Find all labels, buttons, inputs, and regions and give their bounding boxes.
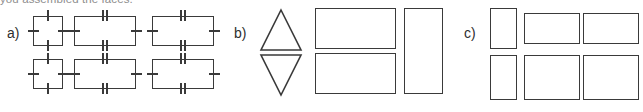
tick-mark-left [147, 30, 158, 32]
tick-mark-top [47, 10, 49, 21]
tick-mark-bottom [180, 40, 182, 51]
tick-mark-right [209, 73, 220, 75]
tick-mark-bottom [106, 83, 108, 94]
caption-strip: you assembled the faces. [0, 0, 260, 7]
tick-mark-right [209, 30, 220, 32]
tick-mark-bottom [184, 40, 186, 51]
caption-text: you assembled the faces. [0, 0, 260, 7]
tick-mark-top [184, 53, 186, 64]
part-label-b: b) [234, 26, 246, 40]
tick-mark-top [106, 53, 108, 64]
shape-rectangle-narrow-c4 [490, 55, 517, 100]
tick-mark-bottom [106, 40, 108, 51]
shape-rectangle-c6 [583, 55, 639, 100]
shape-rectangle-c5 [524, 55, 580, 100]
shape-rectangle-a6 [152, 59, 214, 89]
tick-mark-right [58, 73, 69, 75]
shape-rectangle-c2 [524, 13, 580, 44]
tick-mark-top [47, 53, 49, 64]
tick-mark-right [131, 73, 142, 75]
shape-rectangle-a3 [152, 16, 214, 46]
tick-mark-left [69, 30, 80, 32]
tick-mark-top [180, 10, 182, 21]
tick-mark-top [106, 10, 108, 21]
tick-mark-bottom [47, 40, 49, 51]
tick-mark-bottom [47, 83, 49, 94]
shape-rectangle-a5 [74, 59, 136, 89]
tick-mark-bottom [184, 83, 186, 94]
shape-triangle-down-b2 [259, 53, 303, 97]
tick-mark-left [147, 73, 158, 75]
tick-mark-top [184, 10, 186, 21]
tick-mark-left [28, 73, 39, 75]
part-label-a: a) [7, 26, 19, 40]
tick-mark-top [102, 10, 104, 21]
shape-rectangle-tall-b5 [404, 8, 443, 94]
tick-mark-left [28, 30, 39, 32]
shape-rectangle-b4 [315, 53, 396, 94]
tick-mark-bottom [180, 83, 182, 94]
tick-mark-right [131, 30, 142, 32]
shape-rectangle-a2 [74, 16, 136, 46]
tick-mark-top [180, 53, 182, 64]
shape-triangle-up-b1 [259, 8, 303, 52]
tick-mark-right [58, 30, 69, 32]
tick-mark-bottom [102, 83, 104, 94]
tick-mark-left [69, 73, 80, 75]
shape-rectangle-c3 [583, 13, 639, 44]
part-label-c: c) [464, 26, 476, 40]
shape-rectangle-narrow-c1 [490, 8, 517, 49]
tick-mark-top [102, 53, 104, 64]
shape-rectangle-b3 [315, 8, 396, 49]
tick-mark-bottom [102, 40, 104, 51]
